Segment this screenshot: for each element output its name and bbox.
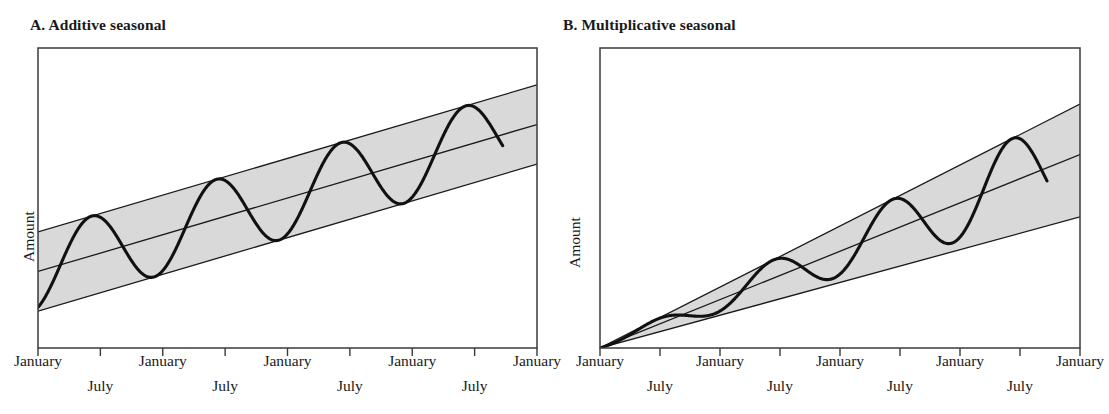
x-tick-label-july: July: [840, 377, 960, 395]
x-tick-label-january: January: [780, 352, 900, 370]
x-tick-label-july: July: [600, 377, 720, 395]
x-tick-label-january: January: [900, 352, 1020, 370]
panel-b-trend-line: [600, 155, 1080, 349]
x-tick-label-january: January: [540, 352, 660, 370]
x-tick-label-january: January: [1020, 352, 1109, 370]
x-tick-label-july: July: [960, 377, 1080, 395]
x-tick-label-july: July: [720, 377, 840, 395]
x-tick-label-january: January: [660, 352, 780, 370]
